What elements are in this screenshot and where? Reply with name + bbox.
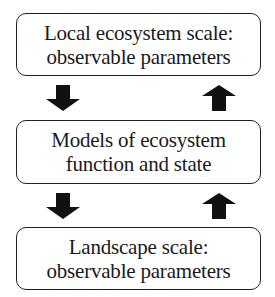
landscape-scale-box: Landscape scale: observable parameters (16, 227, 261, 290)
down-arrow-icon (46, 85, 80, 111)
box-line: observable parameters (46, 45, 230, 69)
down-arrow-icon (46, 193, 80, 219)
box-line: function and state (66, 152, 212, 176)
box-line: Local ecosystem scale: (44, 21, 233, 45)
local-ecosystem-scale-box: Local ecosystem scale: observable parame… (16, 13, 261, 76)
box-line: Landscape scale: (69, 235, 209, 259)
up-arrow-icon (202, 85, 236, 111)
box-line: Models of ecosystem (51, 128, 226, 152)
models-box: Models of ecosystem function and state (16, 120, 261, 184)
box-line: observable parameters (46, 259, 230, 283)
up-arrow-icon (202, 193, 236, 219)
